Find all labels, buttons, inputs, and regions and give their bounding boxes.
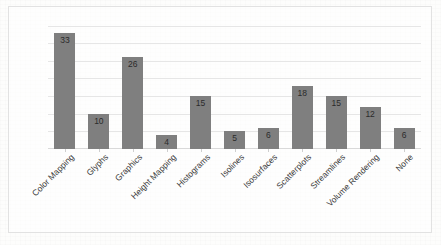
x-axis-tick bbox=[302, 149, 303, 152]
bar-value-label: 15 bbox=[190, 98, 211, 108]
bars-layer: 331026415561815126 bbox=[48, 22, 421, 149]
x-axis-tick bbox=[235, 149, 236, 152]
bar-group[interactable]: 15 bbox=[190, 96, 211, 149]
x-axis-tick bbox=[404, 149, 405, 152]
bar-value-label: 4 bbox=[156, 137, 177, 147]
bar-value-label: 10 bbox=[88, 116, 109, 126]
bar-value-label: 6 bbox=[258, 130, 279, 140]
x-axis-category-labels: Color MappingGlyphsGraphicsHeight Mappin… bbox=[48, 152, 421, 232]
bar-value-label: 15 bbox=[326, 98, 347, 108]
bar-value-label: 6 bbox=[394, 130, 415, 140]
bar[interactable] bbox=[54, 33, 75, 149]
x-axis-tick bbox=[167, 149, 168, 152]
bar-value-label: 5 bbox=[224, 133, 245, 143]
x-axis-tick bbox=[268, 149, 269, 152]
bar-group[interactable]: 26 bbox=[122, 57, 143, 149]
bar-group[interactable]: 18 bbox=[292, 86, 313, 150]
bar[interactable] bbox=[122, 57, 143, 149]
bar-group[interactable]: 12 bbox=[360, 107, 381, 149]
bar-group[interactable]: 5 bbox=[224, 131, 245, 149]
bar-value-label: 33 bbox=[54, 35, 75, 45]
x-axis-tick bbox=[133, 149, 134, 152]
plot-area: 331026415561815126 bbox=[48, 22, 421, 149]
bar-value-label: 12 bbox=[360, 109, 381, 119]
bar-value-label: 18 bbox=[292, 88, 313, 98]
bar-group[interactable]: 6 bbox=[258, 128, 279, 149]
x-axis-label: None bbox=[292, 152, 415, 245]
x-axis-tick bbox=[65, 149, 66, 152]
x-axis-tick bbox=[201, 149, 202, 152]
bar-group[interactable]: 15 bbox=[326, 96, 347, 149]
bar-group[interactable]: 6 bbox=[394, 128, 415, 149]
x-axis-tick bbox=[370, 149, 371, 152]
bar-chart-figure: 331026415561815126 Color MappingGlyphsGr… bbox=[0, 0, 441, 245]
bar-group[interactable]: 10 bbox=[88, 114, 109, 149]
bar-group[interactable]: 4 bbox=[156, 135, 177, 149]
bar-value-label: 26 bbox=[122, 59, 143, 69]
x-axis-tick bbox=[99, 149, 100, 152]
bar-group[interactable]: 33 bbox=[54, 33, 75, 149]
x-axis-tick bbox=[336, 149, 337, 152]
